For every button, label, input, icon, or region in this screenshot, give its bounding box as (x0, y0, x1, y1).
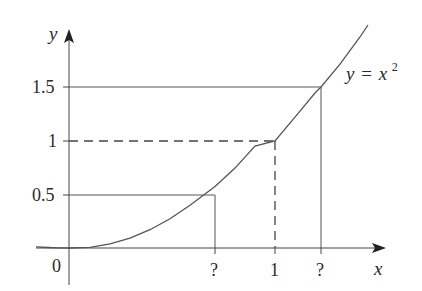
x-tick-label-1: 1 (270, 260, 279, 280)
origin-label: 0 (52, 256, 61, 276)
parabola-curve-line (36, 25, 368, 248)
x-axis-label: x (373, 258, 383, 279)
y-tick-label-0-5: 0.5 (32, 185, 55, 205)
parabola-curve (36, 150, 265, 248)
y-axis-label: y (47, 23, 58, 44)
x-tick-label-q2: ? (316, 260, 324, 280)
parabola-diagram: y x 0 1.5 1 0.5 ? 1 ? y = x 2 (0, 0, 422, 291)
curve-equation-label: y = x 2 (344, 60, 398, 84)
y-tick-label-1: 1 (48, 131, 57, 151)
y-tick-label-1-5: 1.5 (32, 77, 55, 97)
x-tick-label-q1: ? (210, 260, 218, 280)
